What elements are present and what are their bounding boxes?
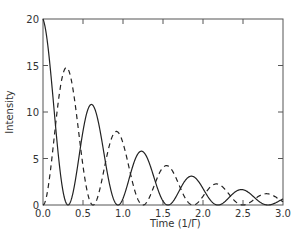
plot-frame bbox=[43, 19, 283, 205]
y-tick-label: 20 bbox=[26, 14, 39, 25]
x-tick-label: 2.5 bbox=[235, 208, 251, 219]
y-tick-label: 15 bbox=[26, 61, 39, 72]
x-tick-label: 0.5 bbox=[75, 208, 91, 219]
x-axis-title: Time (1/Γ) bbox=[149, 218, 201, 229]
x-tick-label: 1.0 bbox=[115, 208, 131, 219]
dashed-series-line bbox=[43, 68, 283, 205]
y-tick-label: 0 bbox=[33, 200, 39, 211]
solid-series-line bbox=[43, 19, 283, 205]
plot-area: 0.00.51.01.52.02.53.0 05101520 bbox=[26, 14, 291, 219]
x-tick-label: 3.0 bbox=[275, 208, 291, 219]
y-axis-title: Intensity bbox=[4, 90, 15, 134]
y-tick-label: 5 bbox=[33, 154, 39, 165]
chart: 0.00.51.01.52.02.53.0 05101520 Time (1/Γ… bbox=[0, 0, 299, 240]
y-tick-label: 10 bbox=[26, 107, 39, 118]
